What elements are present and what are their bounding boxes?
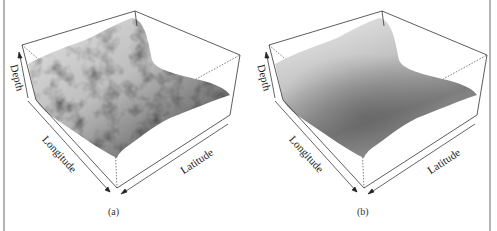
panel-a: Depth Longitude Latitude (a) <box>0 0 245 231</box>
panel-b: Depth Longitude Latitude (b) <box>247 0 492 231</box>
surface-shading <box>275 18 477 158</box>
surface-plot-b <box>247 0 492 231</box>
caption-b: (b) <box>357 206 369 217</box>
surface-plot-a <box>0 0 245 231</box>
caption-a: (a) <box>108 206 119 217</box>
surface-rough <box>28 18 230 158</box>
